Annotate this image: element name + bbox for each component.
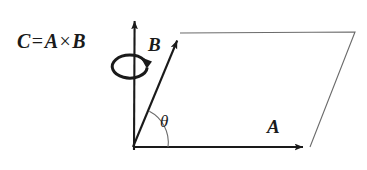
vector-c-arrow (134, 21, 135, 150)
diagram-canvas (0, 0, 367, 170)
formula-b: B (72, 30, 86, 52)
formula-a: A (45, 30, 59, 52)
label-vector-b: B (148, 35, 161, 54)
vector-cross-product-figure: C=A×B B A θ (0, 0, 367, 170)
formula-times-icon: × (58, 30, 72, 52)
label-cross-product-formula: C=A×B (17, 31, 86, 51)
label-angle-theta: θ (160, 113, 168, 130)
rotation-arrowhead (140, 57, 152, 69)
formula-c: C (17, 30, 31, 52)
formula-equals: = (31, 30, 45, 52)
label-vector-a: A (267, 117, 280, 136)
